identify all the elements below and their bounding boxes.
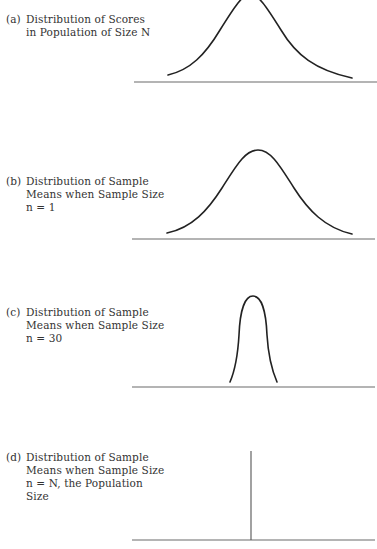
panel-b-normal-curve	[167, 150, 352, 234]
panel-b-plot	[132, 150, 375, 239]
panel-d-plot	[132, 451, 375, 540]
sampling-distribution-figure	[0, 0, 377, 549]
panel-a-plot	[134, 0, 377, 82]
panel-c-plot	[132, 296, 375, 387]
panel-c-narrow-curve	[230, 296, 277, 382]
panel-a-normal-curve	[168, 0, 352, 78]
